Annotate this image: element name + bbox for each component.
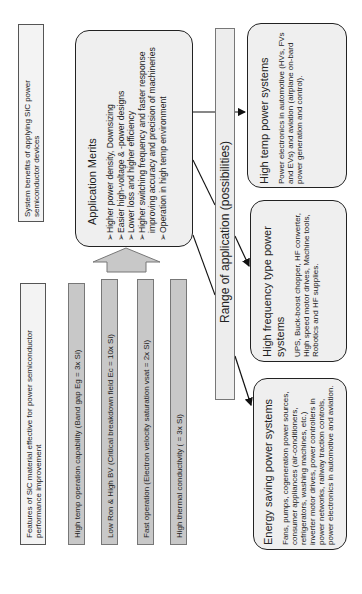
application-merits-content: Application Merits ➢Higher power density…: [82, 36, 190, 241]
application-body: Power electronics in automotive (HVs, FV…: [277, 29, 304, 184]
range-label: Range of application (possibilities): [217, 59, 235, 329]
merit-item: ➢Operation in high temp environment: [158, 36, 169, 241]
feature-label: Fast operation (Electron velocity satura…: [139, 283, 154, 543]
line-merits-to-range-2: [193, 235, 215, 295]
application-title: High frequency type power systems: [261, 207, 287, 357]
features-header-box: Features of SiC material effective for p…: [20, 283, 46, 545]
application-title: Energy saving power systems: [262, 385, 275, 545]
application-body: Fans, pumps, cogeneration power sources,…: [281, 385, 335, 545]
high-frequency-content: High frequency type power systems UPS, B…: [261, 207, 346, 357]
feature-label: High temp operation capability (Band gap…: [70, 287, 85, 543]
feature-bar-thermal-conductivity: High thermal conductivity ( = 3x Si): [170, 279, 187, 545]
merit-item: ➢Higher switching frequency and faster r…: [137, 36, 148, 241]
system-benefits-label: System benefits of applying SiC power se…: [21, 27, 43, 221]
application-merits-title: Application Merits: [82, 36, 105, 241]
feature-bar-fast-operation: Fast operation (Electron velocity satura…: [137, 279, 154, 545]
application-title: High temp power systems: [258, 29, 271, 184]
merit-item: improving accuracy and precision of mach…: [147, 36, 158, 241]
merit-item: ➢Higher power density, Downsizing: [105, 36, 116, 241]
application-merits-box: Application Merits ➢Higher power density…: [75, 30, 193, 247]
system-benefits-box: System benefits of applying SiC power se…: [18, 24, 44, 222]
arrow-to-high-frequency: [235, 236, 249, 266]
feature-label: Low Ron & High BV (Critical breakdown fi…: [103, 283, 118, 543]
feature-bar-low-ron: Low Ron & High BV (Critical breakdown fi…: [101, 279, 118, 545]
block-arrow-icon: [93, 248, 160, 272]
features-header-label: Features of SiC material effective for p…: [23, 287, 45, 543]
energy-saving-systems-box: Energy saving power systems Fans, pumps,…: [253, 378, 347, 550]
feature-label: High thermal conductivity ( = 3x Si): [172, 283, 187, 543]
arrow-to-energy-saving: [235, 356, 251, 405]
application-body: UPS, Buck-boost chopper, HF converter, H…: [293, 207, 320, 357]
energy-saving-content: Energy saving power systems Fans, pumps,…: [262, 385, 346, 545]
merit-item: ➢Easier high-voltage & -power designs: [116, 36, 127, 241]
line-merits-to-range-1: [193, 160, 215, 205]
high-temp-content: High temp power systems Power electronic…: [258, 29, 346, 184]
merit-item: ➢Lower loss and higher efficiency: [126, 36, 137, 241]
range-of-application-bar: Range of application (possibilities): [215, 28, 235, 400]
high-temp-systems-box: High temp power systems Power electronic…: [247, 23, 347, 188]
feature-bar-high-temp: High temp operation capability (Band gap…: [68, 283, 85, 545]
high-frequency-systems-box: High frequency type power systems UPS, B…: [250, 200, 347, 362]
